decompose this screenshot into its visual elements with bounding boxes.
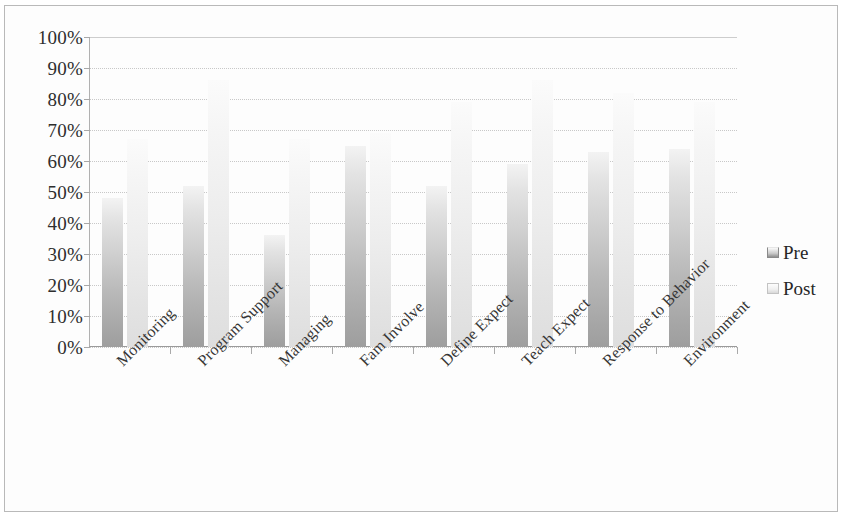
x-axis-tick [494,347,495,354]
x-axis-category-label: Fam Involve [356,298,428,370]
x-axis-tick [656,347,657,354]
x-axis-labels: MonitoringProgram SupportManagingFam Inv… [5,6,843,517]
legend-swatch-pre-icon [767,247,779,258]
legend-swatch-post-icon [767,283,779,294]
x-axis-category-label: Monitoring [113,304,179,370]
x-axis-tick [413,347,414,354]
legend-item-post[interactable]: Post [767,270,837,306]
x-axis-tick [575,347,576,354]
legend-label-pre: Pre [783,243,808,262]
x-axis-category-label: Environment [680,296,753,369]
legend-item-pre[interactable]: Pre [767,234,837,270]
x-axis-tick [251,347,252,354]
chart-legend: Pre Post [767,234,837,306]
x-axis-category-label: Define Expect [437,290,517,370]
chart-frame: 100%90%80%70%60%50%40%30%20%10%0% Monito… [4,5,838,512]
x-axis-tick [332,347,333,354]
x-axis-category-label: Program Support [194,277,286,369]
legend-label-post: Post [783,279,816,298]
x-axis-tick [170,347,171,354]
x-axis-category-label: Managing [275,310,335,370]
x-axis-category-label: Teach Expect [518,294,594,370]
x-axis-tick [737,347,738,354]
